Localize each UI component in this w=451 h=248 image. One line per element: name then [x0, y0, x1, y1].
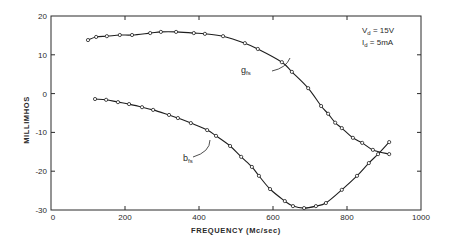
data-point-bfs [105, 98, 108, 101]
chart: 0200400600800100020100-10-20-30 FREQUENC… [0, 0, 451, 248]
x-tick-label: 0 [51, 213, 56, 222]
data-point-bfs [376, 153, 379, 156]
data-point-gfs [320, 104, 323, 107]
y-tick-label: 20 [38, 12, 47, 21]
data-point-gfs [307, 87, 310, 90]
data-point-bfs [228, 144, 231, 147]
data-point-bfs [176, 116, 179, 119]
x-tick-label: 1000 [412, 213, 430, 222]
data-point-bfs [152, 108, 155, 111]
data-point-bfs [367, 161, 370, 164]
x-tick-label: 800 [340, 213, 354, 222]
y-axis-title: MILLIMHOS [22, 96, 31, 143]
data-point-gfs [159, 30, 162, 33]
data-point-bfs [283, 199, 286, 202]
bfs-label-sub: fs [188, 158, 193, 164]
data-point-bfs [314, 205, 317, 208]
gfs-leader-arrow [272, 58, 290, 71]
bfs-label: bfs [183, 140, 210, 164]
data-point-gfs [340, 127, 343, 130]
y-tick-label: -10 [35, 128, 47, 137]
data-point-bfs [167, 113, 170, 116]
data-point-bfs [93, 97, 96, 100]
y-tick-label: -20 [35, 167, 47, 176]
svg-text:bfs: bfs [183, 153, 193, 164]
data-point-bfs [240, 155, 243, 158]
data-point-bfs [355, 174, 358, 177]
data-point-bfs [116, 101, 119, 104]
data-point-gfs [256, 47, 259, 50]
gfs-label-sub: fs [246, 70, 251, 76]
data-point-bfs [189, 121, 192, 124]
data-point-gfs [243, 42, 246, 45]
svg-text:gfs: gfs [241, 65, 251, 76]
data-point-gfs [290, 70, 293, 73]
data-point-bfs [291, 205, 294, 208]
data-point-gfs [280, 61, 283, 64]
bfs-leader-arrow [193, 140, 210, 157]
data-point-gfs [327, 112, 330, 115]
x-tick-label: 200 [118, 213, 132, 222]
data-point-gfs [192, 31, 195, 34]
data-point-gfs [130, 33, 133, 36]
data-point-bfs [324, 201, 327, 204]
x-axis-title: FREQUENCY (Mc/sec) [191, 226, 281, 235]
data-point-bfs [214, 134, 217, 137]
annotation-id: Id = 5mA [362, 38, 394, 48]
y-tick-label: 0 [43, 90, 48, 99]
conditions-annotation: Vd = 15V Id = 5mA [362, 26, 395, 48]
data-point-gfs [174, 30, 177, 33]
data-point-gfs [86, 38, 89, 41]
data-point-gfs [371, 148, 374, 151]
x-tick-label: 400 [192, 213, 206, 222]
y-tick-label: -30 [35, 206, 47, 215]
data-point-bfs [206, 128, 209, 131]
data-point-gfs [388, 153, 391, 156]
data-point-gfs [95, 35, 98, 38]
data-point-gfs [203, 32, 206, 35]
data-point-bfs [388, 141, 391, 144]
series-line-gfs [88, 32, 389, 154]
curves [88, 32, 389, 208]
data-point-bfs [302, 206, 305, 209]
data-point-bfs [268, 187, 271, 190]
data-point-gfs [149, 31, 152, 34]
x-tick-label: 600 [266, 213, 280, 222]
data-point-bfs [257, 174, 260, 177]
y-tick-label: 10 [38, 51, 47, 60]
data-point-gfs [221, 35, 224, 38]
data-point-bfs [340, 188, 343, 191]
points [86, 30, 390, 209]
data-point-gfs [105, 35, 108, 38]
data-point-bfs [250, 165, 253, 168]
data-point-gfs [118, 33, 121, 36]
data-point-bfs [127, 102, 130, 105]
annotation-vd: Vd = 15V [362, 26, 395, 36]
data-point-gfs [351, 136, 354, 139]
series-line-bfs [95, 99, 389, 208]
data-point-bfs [140, 106, 143, 109]
data-point-gfs [334, 121, 337, 124]
data-point-gfs [361, 141, 364, 144]
